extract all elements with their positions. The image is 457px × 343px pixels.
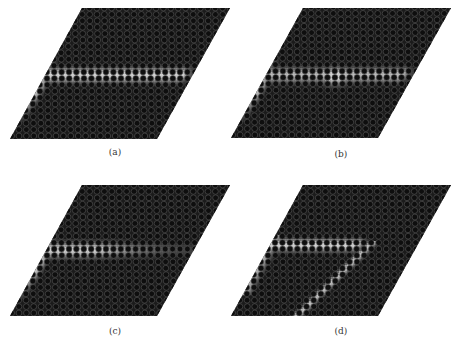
- panel-d: [0, 0, 457, 343]
- caption-d: (d): [335, 327, 348, 336]
- field-plot-d: [0, 0, 457, 343]
